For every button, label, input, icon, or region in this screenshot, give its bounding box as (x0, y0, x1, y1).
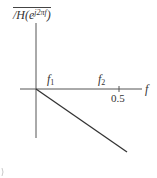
marker-f2-subscript: 2 (101, 78, 105, 87)
marker-f1: f1 (47, 73, 54, 87)
y-label-prefix: /H(e (13, 8, 34, 22)
y-axis-label: /H(ej2πf) (13, 7, 51, 21)
marker-f1-subscript: 1 (50, 78, 54, 87)
phase-response-diagram: /H(ej2πf) f1 f2 f 0.5 (0, 0, 157, 178)
stray-mark (2, 168, 3, 176)
x-axis-label: f (145, 83, 148, 95)
marker-f2: f2 (98, 73, 105, 87)
y-label-exponent: j2πf (34, 8, 46, 17)
diagram-canvas (0, 0, 157, 178)
y-label-suffix: ) (47, 8, 51, 22)
tick-label-0-5: 0.5 (111, 93, 125, 104)
